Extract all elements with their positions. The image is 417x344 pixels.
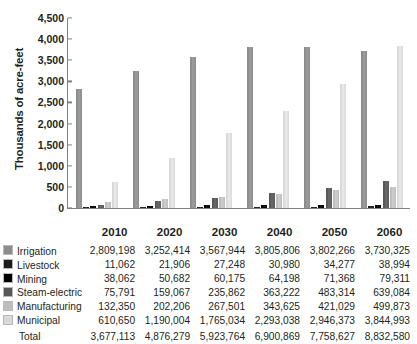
bar-fill [83,207,89,208]
bar-fill [197,207,203,208]
bar-fill [169,158,175,208]
bar-livestock-2020 [140,207,146,208]
table-cell-2010: 132,350 [87,300,142,314]
bar-irrigation-2050 [304,47,310,208]
bar-irrigation-2030 [190,57,196,208]
table-cell-2040: 2,293,038 [252,314,307,328]
bar-municipal-2040 [283,111,289,208]
legend-label: Livestock [17,259,59,272]
total-cell-2010: 3,677,113 [87,327,142,343]
table-cell-2050: 71,368 [307,272,362,286]
table-cell-2060: 79,311 [362,272,417,286]
bar-fill [368,206,374,208]
bar-municipal-2060 [397,46,403,208]
bar-fill [219,197,225,208]
table-cell-2060: 38,994 [362,258,417,272]
bar-fill [383,181,389,208]
y-axis-tick-label: 4,500 [4,12,64,24]
table-cell-2030: 1,765,034 [197,314,252,328]
bar-fill [397,46,403,208]
y-axis-tick-label: 500 [4,181,64,193]
bar-mining-2050 [318,205,324,208]
bar-fill [190,57,196,208]
table-cell-2060: 3,730,325 [362,244,417,258]
legend-swatch-icon [3,315,13,325]
bar-fill [98,205,104,208]
table-cell-2020: 50,682 [142,272,197,286]
bar-municipal-2020 [169,158,175,208]
y-axis-tick-label: 3,000 [4,75,64,87]
table-total-row: Total3,677,1134,876,2795,923,7646,900,86… [0,327,417,343]
bar-fill [155,201,161,208]
bar-fill [204,205,210,208]
bar-livestock-2050 [311,207,317,208]
bar-chart: Thousands of acre-feet 05001,0001,5002,0… [0,0,417,225]
table-cell-2040: 64,198 [252,272,307,286]
table-cell-2020: 3,252,414 [142,244,197,258]
legend-label: Mining [17,273,47,286]
bar-municipal-2010 [112,182,118,208]
table-header-year-2060: 2060 [362,224,417,244]
y-axis-tick-label: 2,500 [4,96,64,108]
table-cell-2010: 75,791 [87,286,142,300]
table-cell-2060: 639,084 [362,286,417,300]
values-table: 201020202030204020502060Irrigation2,809,… [0,224,417,344]
table-cell-2010: 38,062 [87,272,142,286]
table-cell-2010: 610,650 [87,314,142,328]
bar-manufacturing-2010 [105,202,111,208]
bar-group-2030 [182,18,239,208]
bar-mining-2030 [204,205,210,208]
bar-fill [133,71,139,208]
bar-fill [140,207,146,208]
y-axis-tick-label: 1,000 [4,160,64,172]
table-cell-2030: 60,175 [197,272,252,286]
bar-fill [375,205,381,208]
bar-steam-electric-2010 [98,205,104,208]
x-axis-line [67,208,410,209]
table-cell-2040: 363,222 [252,286,307,300]
bar-fill [247,47,253,208]
bar-fill [105,202,111,208]
bar-manufacturing-2040 [276,194,282,209]
table-cell-2010: 2,809,198 [87,244,142,258]
bar-group-2060 [353,18,410,208]
bar-group-2040 [239,18,296,208]
table-header-year-2030: 2030 [197,224,252,244]
total-cell-2020: 4,876,279 [142,327,197,343]
legend-entry: Irrigation [0,244,87,258]
y-axis-tick-label: 0 [4,202,64,214]
legend-swatch-icon [3,301,13,311]
bar-steam-electric-2030 [212,198,218,208]
bar-fill [304,47,310,208]
legend-swatch-icon [3,245,13,255]
bar-livestock-2010 [83,207,89,208]
total-label: Total [0,327,87,343]
bar-steam-electric-2040 [269,193,275,208]
legend-label: Irrigation [17,245,57,258]
legend-entry: Manufacturing [0,300,87,314]
bar-manufacturing-2050 [333,190,339,208]
table-cell-2050: 34,277 [307,258,362,272]
bar-irrigation-2040 [247,47,253,208]
bar-fill [269,193,275,208]
table-cell-2030: 3,567,944 [197,244,252,258]
table-cell-2020: 202,206 [142,300,197,314]
bar-manufacturing-2020 [162,199,168,208]
bar-fill [326,188,332,208]
legend-label: Municipal [17,314,60,327]
bar-fill [90,206,96,208]
total-cell-2050: 7,758,627 [307,327,362,343]
legend-label: Steam-electric [17,286,82,299]
y-axis-tick-label: 4,000 [4,33,64,45]
bar-irrigation-2010 [76,89,82,208]
table-header-year-2010: 2010 [87,224,142,244]
bar-steam-electric-2060 [383,181,389,208]
bar-fill [283,111,289,208]
table-row: Mining38,06250,68260,17564,19871,36879,3… [0,272,417,286]
table-cell-2030: 267,501 [197,300,252,314]
table-corner-cell [0,224,87,244]
table-cell-2030: 27,248 [197,258,252,272]
bar-fill [226,133,232,208]
y-axis-tick-label: 3,500 [4,54,64,66]
